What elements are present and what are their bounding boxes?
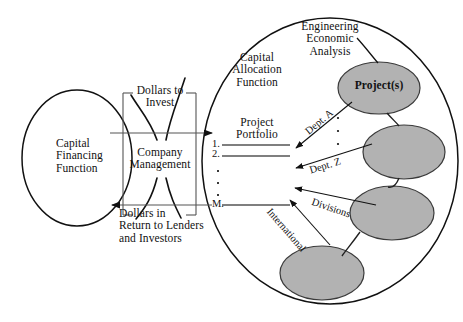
cm-line1: Company — [137, 146, 182, 158]
dollars-in-return-label: Dollars in Return to Lenders and Investo… — [119, 207, 239, 244]
dir-line1: Dollars in — [119, 207, 166, 219]
eea-line2: Economic — [306, 32, 353, 44]
cff-line3: Function — [56, 162, 98, 174]
dir-line2: Return to Lenders — [119, 219, 204, 231]
dollars-to-invest-label: Dollars to Invest — [125, 84, 195, 109]
portfolio-dot-3 — [217, 194, 219, 196]
dti-line2: Invest — [146, 96, 175, 108]
caf-line3: Function — [236, 76, 278, 88]
pp-line2: Portfolio — [236, 128, 278, 140]
portfolio-dot-1 — [217, 170, 219, 172]
engineering-economic-analysis-label: Engineering Economic Analysis — [290, 20, 370, 57]
project-node-group — [280, 62, 445, 300]
project-node-3[interactable] — [350, 186, 434, 240]
portfolio-dot-2 — [217, 182, 219, 184]
caf-line2: Allocation — [232, 63, 282, 75]
portfolio-marker-2: 2. — [212, 148, 220, 159]
capital-allocation-function-label: Capital Allocation Function — [226, 51, 288, 88]
portfolio-marker-m: M. — [212, 198, 224, 209]
project-node-4[interactable] — [280, 246, 364, 300]
portfolio-rules — [222, 145, 290, 205]
project-portfolio-label: Project Portfolio — [220, 116, 294, 141]
company-management-label: Company Management — [123, 146, 197, 171]
dept-ellipsis-dots — [337, 117, 339, 145]
dir-line3: and Investors — [119, 232, 182, 244]
pp-line1: Project — [240, 116, 273, 128]
capital-financing-function-label: Capital Financing Function — [56, 137, 103, 174]
project-node-2[interactable] — [363, 125, 445, 179]
eea-line1: Engineering — [301, 20, 358, 32]
cff-line2: Financing — [56, 149, 103, 161]
cm-line2: Management — [129, 158, 190, 170]
projects-node-label: Project(s) — [349, 79, 409, 91]
dti-line1: Dollars to — [137, 84, 184, 96]
caf-line1: Capital — [240, 51, 274, 63]
eea-line3: Analysis — [309, 45, 350, 57]
cff-line1: Capital — [56, 137, 90, 149]
